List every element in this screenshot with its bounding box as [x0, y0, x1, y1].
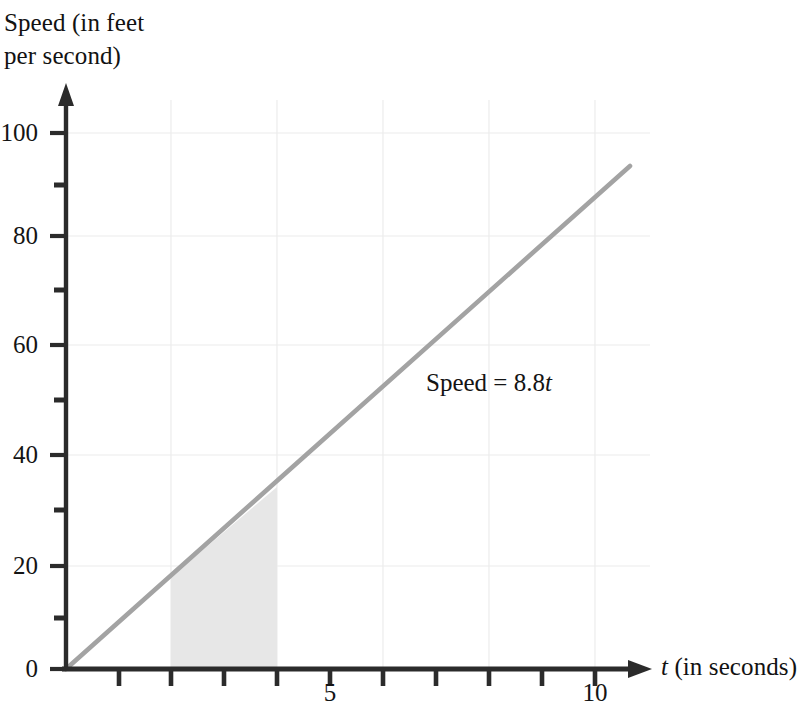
x-axis-arrowhead: [628, 660, 652, 678]
y-tick-label-40: 40: [0, 441, 38, 469]
gridlines: [66, 100, 650, 669]
y-tick-label-0: 0: [0, 655, 38, 683]
y-axis-title: Speed (in feet per second): [4, 6, 144, 72]
chart-canvas: [0, 0, 807, 709]
x-tick-label-5: 5: [310, 679, 350, 707]
y-axis-arrowhead: [58, 83, 74, 106]
y-axis: [58, 83, 74, 669]
x-axis-title-variable: t: [661, 653, 668, 680]
shaded-area-region: [171, 487, 277, 669]
y-tick-label-20: 20: [0, 552, 38, 580]
y-axis-ticks: [50, 133, 66, 669]
x-tick-label-10: 10: [575, 679, 615, 707]
x-axis-title: t (in seconds): [661, 650, 797, 683]
equation-annotation: Speed = 8.8t: [426, 369, 552, 397]
y-tick-label-60: 60: [0, 331, 38, 359]
x-axis-ticks: [119, 669, 595, 686]
y-tick-label-80: 80: [0, 222, 38, 250]
equation-text: Speed = 8.8: [426, 369, 545, 396]
y-tick-label-100: 100: [0, 119, 38, 147]
equation-variable: t: [545, 369, 552, 396]
speed-vs-time-chart: Speed (in feet per second) t (in seconds…: [0, 0, 807, 709]
x-axis: [62, 660, 652, 678]
speed-line: [66, 166, 630, 669]
x-axis-title-text: (in seconds): [668, 653, 797, 680]
